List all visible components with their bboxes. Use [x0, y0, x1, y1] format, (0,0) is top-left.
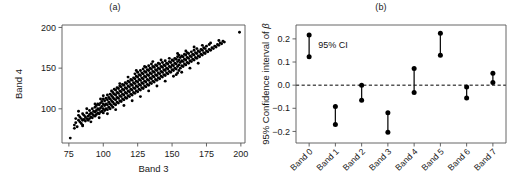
scatter-point [85, 107, 88, 110]
scatter-point [117, 92, 120, 95]
scatter-point [153, 66, 156, 69]
scatter-point [155, 64, 158, 67]
scatter-point [94, 102, 97, 105]
ci-lower-dot [333, 122, 338, 127]
scatter-point [136, 76, 139, 79]
scatter-point [136, 90, 139, 93]
scatter-point [155, 79, 158, 82]
scatter-point [77, 110, 80, 113]
scatter-point [201, 54, 204, 57]
x-tick-label: 150 [165, 149, 180, 159]
scatter-point [169, 66, 172, 69]
scatter-point [153, 71, 156, 74]
category-label: Band 3 [367, 146, 393, 172]
scatter-point [136, 81, 139, 84]
scatter-point [125, 92, 128, 95]
scatter-point [184, 59, 187, 62]
ci-lower-dot [359, 98, 364, 103]
scatter-point [135, 69, 138, 72]
scatter-point [150, 82, 153, 85]
scatter-point [147, 64, 150, 67]
scatter-point [161, 71, 164, 74]
scatter-point [176, 52, 179, 55]
scatter-point [168, 57, 171, 60]
scatter-point [114, 89, 117, 92]
scatter-point [178, 59, 181, 62]
scatter-point [142, 82, 145, 85]
scatter-point [139, 79, 142, 82]
y-tick-label: 150 [41, 63, 56, 73]
scatter-point [120, 90, 123, 93]
scatter-point [143, 65, 146, 68]
scatter-point [147, 79, 150, 82]
panel-a-x-axis-title: Band 3 [138, 163, 168, 174]
scatter-point [195, 47, 198, 50]
ci-upper-dot [412, 66, 417, 71]
scatter-point [204, 52, 207, 55]
category-label: Band 4 [393, 146, 419, 172]
scatter-point [195, 52, 198, 55]
panel-b-tick-marks [293, 39, 493, 147]
scatter-point [172, 64, 175, 67]
panel-a-x-tick-labels: 75100125150175200 [64, 149, 249, 159]
scatter-point [193, 59, 196, 62]
scatter-point [69, 137, 72, 140]
scatter-point [164, 69, 167, 72]
scatter-point [114, 103, 117, 106]
scatter-point [180, 71, 183, 74]
scatter-point [147, 69, 150, 72]
scatter-point [155, 74, 158, 77]
scatter-point [172, 69, 175, 72]
scatter-point [201, 44, 204, 47]
panel-a-title: (a) [0, 2, 230, 12]
scatter-point [106, 103, 109, 106]
scatter-point [98, 116, 101, 119]
scatter-point [215, 46, 218, 49]
scatter-point [187, 57, 190, 60]
scatter-point [164, 74, 167, 77]
scatter-point [131, 79, 134, 82]
scatter-point [120, 85, 123, 88]
scatter-point [167, 72, 170, 75]
scatter-point [109, 107, 112, 110]
scatter-point [198, 50, 201, 53]
scatter-point [144, 71, 147, 74]
scatter-point [74, 121, 77, 124]
ci-lower-dot [464, 96, 469, 101]
scatter-point [158, 67, 161, 70]
scatter-point [169, 61, 172, 64]
category-label: Band 5 [419, 146, 445, 172]
scatter-point [100, 105, 103, 108]
scatter-point [201, 49, 204, 52]
scatter-point [88, 109, 91, 112]
scatter-point [150, 77, 153, 80]
scatter-point [122, 84, 125, 87]
scatter-point [182, 60, 185, 63]
ci-upper-dot [359, 83, 364, 88]
scatter-point [150, 67, 153, 70]
y-tick-label: −0.2 [272, 127, 290, 137]
scatter-point [103, 99, 106, 102]
scatter-point [106, 94, 109, 97]
scatter-point [118, 82, 121, 85]
scatter-point [175, 58, 178, 61]
panel-b-confidence-intervals: (b) 0.20.10.0−0.1−0.2 Band 0Band 1Band 2… [256, 0, 513, 189]
x-tick-label: 100 [96, 149, 111, 159]
x-tick-label: 125 [130, 149, 145, 159]
category-label: Band 1 [314, 146, 340, 172]
scatter-point [178, 69, 181, 72]
category-label: Band 0 [288, 146, 314, 172]
scatter-point [176, 72, 179, 75]
ci-upper-dot [490, 71, 495, 76]
y-tick-label: 200 [41, 23, 56, 33]
scatter-point [209, 41, 212, 44]
scatter-point [155, 69, 158, 72]
scatter-point [217, 39, 220, 42]
ci-lower-dot [438, 53, 443, 58]
scatter-point [133, 92, 136, 95]
scatter-point [84, 120, 87, 123]
scatter-point [106, 112, 109, 115]
scatter-point [114, 94, 117, 97]
scatter-point [197, 62, 200, 65]
scatter-point [131, 89, 134, 92]
